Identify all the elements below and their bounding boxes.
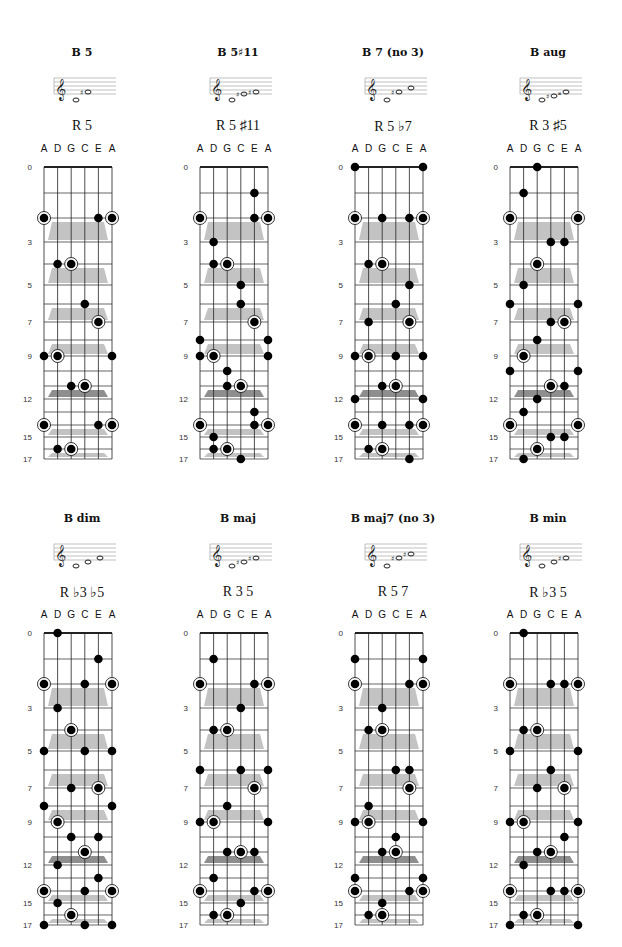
svg-text:12: 12 bbox=[334, 861, 343, 870]
chord-panel-b5s11: B 5♯11 R 5 ♯11 ADGCEA𝄞♯♯03579121517 bbox=[163, 0, 313, 470]
svg-text:3: 3 bbox=[28, 238, 33, 247]
svg-text:3: 3 bbox=[339, 704, 344, 713]
svg-text:12: 12 bbox=[489, 395, 498, 404]
svg-text:12: 12 bbox=[23, 395, 32, 404]
svg-text:9: 9 bbox=[184, 352, 189, 361]
svg-text:3: 3 bbox=[339, 238, 344, 247]
svg-text:15: 15 bbox=[334, 433, 343, 442]
chord-panel-b7no3: B 7 (no 3) R 5 ♭7 ADGCEA𝄞♯03579121517 bbox=[318, 0, 468, 470]
svg-text:5: 5 bbox=[339, 747, 344, 756]
svg-text:5: 5 bbox=[28, 747, 33, 756]
svg-text:17: 17 bbox=[489, 455, 498, 464]
svg-text:9: 9 bbox=[494, 352, 499, 361]
svg-text:5: 5 bbox=[494, 281, 499, 290]
fretboard: 03579121517 bbox=[318, 466, 468, 936]
chord-panel-bmaj: B maj R 3 5 ADGCEA𝄞♯♯03579121517 bbox=[163, 466, 313, 936]
svg-text:0: 0 bbox=[184, 163, 189, 172]
svg-text:0: 0 bbox=[494, 163, 499, 172]
fretboard: 03579121517 bbox=[473, 0, 622, 470]
chord-panel-bmin: B min R ♭3 5 ADGCEA𝄞♯03579121517 bbox=[473, 466, 622, 936]
svg-text:7: 7 bbox=[494, 784, 499, 793]
svg-text:15: 15 bbox=[179, 433, 188, 442]
svg-text:0: 0 bbox=[28, 629, 33, 638]
chord-panel-bdim: B dim R ♭3 ♭5 ADGCEA𝄞03579121517 bbox=[7, 466, 157, 936]
svg-text:7: 7 bbox=[339, 784, 344, 793]
svg-text:0: 0 bbox=[339, 629, 344, 638]
svg-text:5: 5 bbox=[339, 281, 344, 290]
svg-text:3: 3 bbox=[494, 704, 499, 713]
svg-text:17: 17 bbox=[179, 455, 188, 464]
svg-text:0: 0 bbox=[494, 629, 499, 638]
chord-panel-baug: B aug R 3 ♯5 ADGCEA𝄞♯𝄪03579121517 bbox=[473, 0, 622, 470]
svg-text:0: 0 bbox=[184, 629, 189, 638]
svg-text:9: 9 bbox=[494, 818, 499, 827]
fretboard: 03579121517 bbox=[318, 0, 468, 470]
fretboard: 03579121517 bbox=[163, 466, 313, 936]
svg-text:12: 12 bbox=[334, 395, 343, 404]
svg-text:17: 17 bbox=[23, 455, 32, 464]
svg-text:5: 5 bbox=[184, 281, 189, 290]
svg-text:17: 17 bbox=[23, 921, 32, 930]
svg-text:7: 7 bbox=[28, 784, 33, 793]
svg-text:12: 12 bbox=[179, 395, 188, 404]
svg-text:17: 17 bbox=[179, 921, 188, 930]
svg-text:9: 9 bbox=[28, 818, 33, 827]
svg-text:12: 12 bbox=[23, 861, 32, 870]
svg-text:3: 3 bbox=[184, 704, 189, 713]
svg-text:7: 7 bbox=[28, 318, 33, 327]
svg-text:9: 9 bbox=[28, 352, 33, 361]
fretboard: 03579121517 bbox=[473, 466, 622, 936]
svg-text:15: 15 bbox=[23, 433, 32, 442]
svg-text:0: 0 bbox=[28, 163, 33, 172]
chord-panel-bmaj7no3: B maj7 (no 3) R 5 7 ADGCEA𝄞♯♯03579121517 bbox=[318, 466, 468, 936]
svg-text:7: 7 bbox=[339, 318, 344, 327]
svg-text:9: 9 bbox=[339, 818, 344, 827]
svg-text:7: 7 bbox=[184, 318, 189, 327]
fretboard: 03579121517 bbox=[163, 0, 313, 470]
svg-text:17: 17 bbox=[334, 455, 343, 464]
fretboard: 03579121517 bbox=[7, 466, 157, 936]
fretboard: 03579121517 bbox=[7, 0, 157, 470]
svg-text:0: 0 bbox=[339, 163, 344, 172]
svg-text:17: 17 bbox=[489, 921, 498, 930]
svg-text:3: 3 bbox=[28, 704, 33, 713]
svg-text:15: 15 bbox=[179, 899, 188, 908]
svg-text:7: 7 bbox=[494, 318, 499, 327]
svg-text:5: 5 bbox=[28, 281, 33, 290]
svg-text:9: 9 bbox=[339, 352, 344, 361]
svg-text:3: 3 bbox=[494, 238, 499, 247]
svg-text:12: 12 bbox=[179, 861, 188, 870]
svg-text:9: 9 bbox=[184, 818, 189, 827]
svg-text:15: 15 bbox=[334, 899, 343, 908]
svg-text:15: 15 bbox=[23, 899, 32, 908]
svg-text:12: 12 bbox=[489, 861, 498, 870]
svg-text:3: 3 bbox=[184, 238, 189, 247]
chord-panel-b5: B 5 R 5 ADGCEA𝄞♯03579121517 bbox=[7, 0, 157, 470]
svg-text:15: 15 bbox=[489, 433, 498, 442]
svg-text:5: 5 bbox=[494, 747, 499, 756]
svg-text:17: 17 bbox=[334, 921, 343, 930]
svg-text:5: 5 bbox=[184, 747, 189, 756]
svg-text:7: 7 bbox=[184, 784, 189, 793]
svg-text:15: 15 bbox=[489, 899, 498, 908]
